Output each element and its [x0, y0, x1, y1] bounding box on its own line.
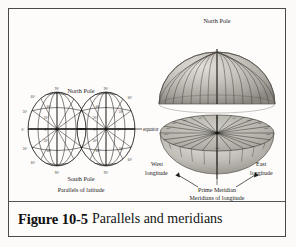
lon-tick-60e: 60° — [247, 119, 251, 122]
lon-tick-180: 180° — [215, 147, 220, 150]
figure-caption-text: Parallels and meridians — [92, 211, 223, 227]
right-north-pole-label: North Pole — [204, 17, 231, 24]
lon-tick-30e: 30° — [232, 117, 236, 120]
figure-illustration: North Pole — [9, 9, 285, 201]
right-globe-inner-60n: 60° — [96, 105, 101, 109]
lon-tick-30w: 30° — [198, 117, 202, 120]
east-longitude-arrow-shaft — [236, 175, 255, 187]
lon-tick-150w: 150° — [164, 133, 169, 136]
lon-tick-90e: 90° — [258, 122, 262, 125]
figure-number: Figure 10-5 — [18, 211, 88, 228]
equator-label: equator — [143, 126, 159, 132]
right-globe-deg-60s: 60° — [128, 158, 133, 162]
left-globe-deg-30s: 30° — [23, 147, 28, 151]
left-north-pole-label: North Pole — [68, 87, 95, 94]
east-longitude-line1: East — [256, 161, 267, 167]
right-globe-deg-60n: 60° — [128, 96, 133, 100]
right-globe-inner-30n: 30° — [93, 116, 98, 120]
left-globe-deg-60s: 60° — [31, 161, 36, 165]
northern-hemisphere-dome — [159, 49, 275, 113]
lon-tick-120e: 120° — [264, 127, 269, 130]
right-globe-deg-90s: 90° — [104, 171, 109, 175]
left-globe-deg-90n: 90° — [55, 87, 60, 91]
lon-tick-120w: 120° — [166, 127, 171, 130]
left-globe-deg-0: 0° — [22, 128, 26, 132]
left-globe-inner-60s: 60° — [47, 149, 52, 153]
left-globe-deg-30n: 30° — [23, 110, 28, 114]
equator-pointer: equator — [135, 126, 159, 132]
west-longitude-line2: longitude — [145, 170, 168, 176]
right-globe-deg-90n: 90° — [104, 87, 109, 91]
left-globe-deg-90s: 90° — [55, 171, 60, 175]
east-longitude-line2: longitude — [250, 170, 273, 176]
right-globe-inner-60s: 60° — [96, 149, 101, 153]
left-globe-wireframe: 90° 60° 30° 0° 30° 60° 90° 60° 30° 0° 30… — [22, 87, 86, 175]
right-globe-deg-30n: 30° — [119, 110, 124, 114]
right-globe-inner-30s: 30° — [93, 139, 98, 143]
lon-tick-0: 0° — [216, 117, 218, 120]
lon-tick-60w: 60° — [183, 119, 187, 122]
figure-caption: Figure 10-5 Parallels and meridians — [9, 202, 285, 236]
lon-tick-150e: 150° — [266, 133, 271, 136]
prime-meridian-label: Prime Meridian — [198, 187, 236, 193]
west-longitude-line1: West — [151, 161, 163, 167]
left-globe-inner-60n: 60° — [47, 105, 52, 109]
right-globe-deg-30s: 30° — [119, 147, 124, 151]
left-globe-inner-30n: 30° — [44, 116, 49, 120]
west-longitude-arrowhead — [175, 172, 180, 177]
prime-meridian-annotation: Prime Meridian — [198, 179, 236, 193]
illustration-svg: North Pole — [9, 9, 285, 201]
left-globe-deg-60n: 60° — [31, 95, 36, 99]
west-longitude-arrow-shaft — [178, 175, 198, 187]
south-pole-label: South Pole — [68, 175, 95, 182]
figure-frame: North Pole — [8, 8, 286, 237]
left-diagram-group: North Pole — [22, 87, 159, 193]
lon-tick-90w: 90° — [172, 122, 176, 125]
parallels-of-latitude-caption: Parallels of latitude — [58, 187, 105, 193]
left-globe-inner-30s: 30° — [44, 139, 49, 143]
right-diagram-group: North Pole — [145, 17, 275, 201]
